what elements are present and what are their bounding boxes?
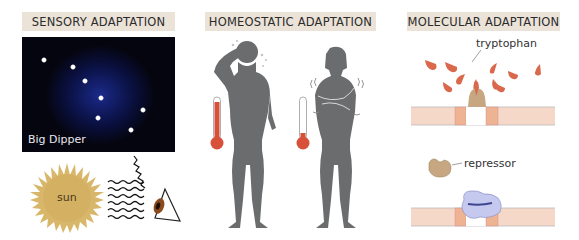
light-waves-icon: [108, 156, 145, 219]
repressor-protein-icon: [429, 159, 451, 177]
thermometer-hot-icon: [211, 97, 224, 150]
woman-silhouette-hot-icon: [214, 41, 276, 228]
woman-silhouette-cold-icon: [315, 47, 356, 228]
big-dipper-label: Big Dipper: [28, 133, 86, 146]
repressor-complex-icon: [462, 191, 501, 219]
repressor-binding-icon: [468, 81, 486, 107]
eye-icon: [152, 189, 180, 221]
tryptophan-label: tryptophan: [476, 37, 537, 50]
sun-label: sun: [57, 191, 77, 204]
repressor-pointer: [452, 163, 462, 165]
tryptophan-molecules: [425, 60, 541, 92]
thermometer-cold-icon: [297, 97, 310, 150]
tryptophan-pointer: [472, 50, 481, 62]
diagram-canvas: [0, 0, 579, 240]
repressor-label: repressor: [464, 157, 516, 170]
dna-membrane-top-icon: [411, 107, 555, 125]
